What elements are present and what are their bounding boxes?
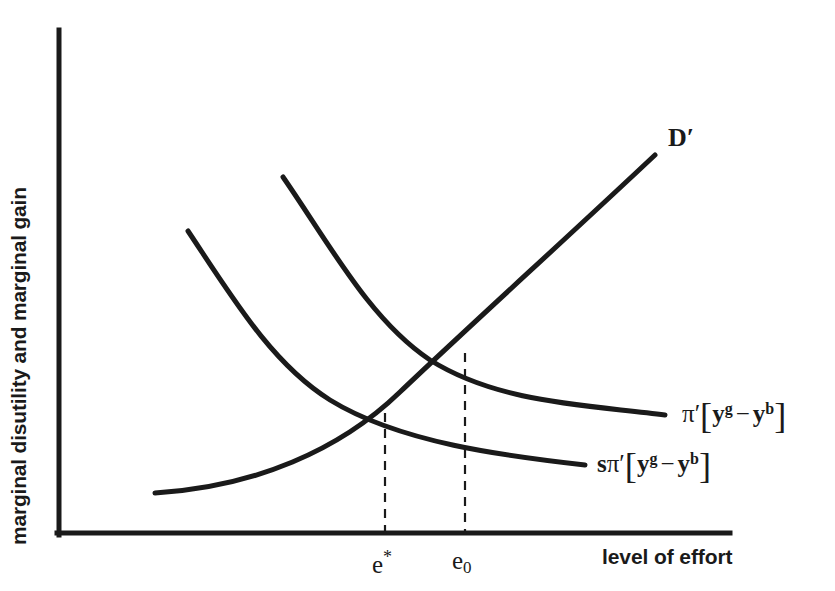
x-tick-label-e-star: e*	[372, 548, 392, 577]
spi-minus-sign: −	[660, 450, 674, 477]
spi-pi-symbol: π	[607, 450, 620, 477]
x-tick-label-e-zero: e0	[452, 548, 472, 576]
spi-superscript-g: g	[649, 450, 657, 467]
curve-pi-prime	[283, 177, 665, 415]
pi-bracket-open: [	[700, 396, 712, 436]
diagram-canvas	[0, 0, 835, 591]
e-star-base: e	[372, 551, 383, 578]
curve-label-pi-prime: π′[yg−yb]	[682, 398, 786, 434]
pi-superscript-g: g	[725, 400, 733, 417]
curve-s-pi-prime	[188, 231, 585, 465]
x-axis-title: level of effort	[602, 546, 732, 567]
d-prime-base: D′	[668, 123, 694, 152]
spi-superscript-b: b	[690, 450, 699, 467]
spi-y-good: y	[637, 450, 650, 477]
y-axis-title: marginal disutility and marginal gain	[8, 25, 42, 545]
e-zero-base: e	[452, 547, 463, 574]
curve-d-prime	[155, 155, 655, 493]
curve-group	[155, 155, 665, 493]
pi-symbol: π	[682, 400, 695, 427]
pi-superscript-b: b	[765, 400, 774, 417]
curve-label-d-prime: D′	[668, 125, 694, 151]
e-zero-subscript: 0	[463, 558, 472, 577]
pi-minus-sign: −	[736, 400, 750, 427]
pi-bracket-close: ]	[774, 396, 786, 436]
curve-label-s-pi-prime: sπ′[yg−yb]	[597, 448, 711, 484]
effort-equilibrium-diagram: marginal disutility and marginal gain le…	[0, 0, 835, 591]
spi-y-bad: y	[678, 450, 691, 477]
pi-y-bad: y	[753, 400, 766, 427]
spi-bracket-open: [	[625, 446, 637, 486]
pi-y-good: y	[712, 400, 725, 427]
e-star-superscript: *	[383, 547, 392, 567]
spi-s-symbol: s	[597, 450, 607, 477]
spi-bracket-close: ]	[699, 446, 711, 486]
